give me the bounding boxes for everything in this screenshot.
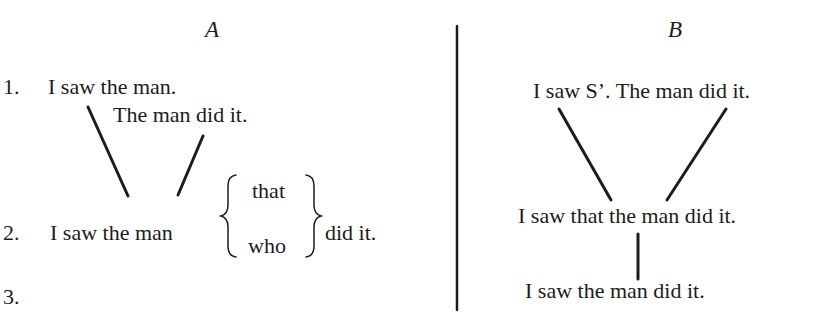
connector-a-left bbox=[88, 107, 128, 196]
connector-b-left bbox=[559, 109, 611, 200]
connector-b-right bbox=[667, 109, 726, 200]
connector-a-right bbox=[178, 136, 203, 195]
right-brace bbox=[306, 175, 321, 257]
connector-lines bbox=[0, 0, 822, 318]
left-brace bbox=[221, 175, 236, 257]
